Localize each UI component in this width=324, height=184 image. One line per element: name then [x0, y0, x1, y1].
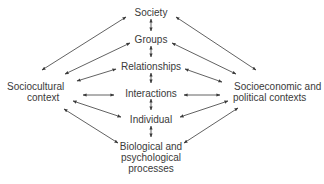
node-biological-line2: psychological: [120, 152, 182, 163]
arrow-individual-sociocultural: [73, 101, 121, 117]
arrow-relationships-socioeconomic: [185, 69, 222, 82]
node-biological-line1: Biological and: [120, 141, 182, 152]
node-relationships: Relationships: [121, 61, 181, 72]
arrow-relationships-sociocultural: [77, 69, 116, 81]
node-socioeconomic: Socioeconomic and political contexts: [230, 81, 321, 103]
node-biological-line3: processes: [120, 163, 182, 174]
arrow-society-sociocultural: [42, 17, 126, 70]
node-individual: Individual: [130, 114, 172, 125]
node-sociocultural: Sociocultural context: [7, 81, 64, 103]
arrow-individual-socioeconomic: [180, 101, 228, 117]
arrow-groups-socioeconomic: [172, 43, 236, 74]
node-sociocultural-line1: Sociocultural: [7, 81, 64, 92]
node-biological: Biological and psychological processes: [120, 141, 182, 174]
node-socioeconomic-line1: Socioeconomic and: [230, 81, 321, 92]
arrow-biological-sociocultural: [64, 109, 118, 143]
node-sociocultural-line2: context: [7, 92, 64, 103]
node-interactions: Interactions: [125, 88, 177, 99]
arrow-society-socioeconomic: [176, 17, 256, 70]
node-socioeconomic-line2: political contexts: [230, 92, 321, 103]
node-society: Society: [135, 7, 168, 18]
node-groups: Groups: [135, 34, 168, 45]
